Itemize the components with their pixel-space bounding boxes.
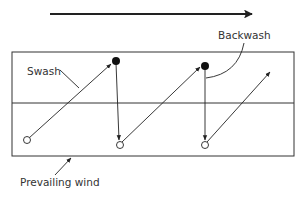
swash-label: Swash [27,65,61,77]
pebble-start-1 [24,137,31,144]
prevailing-wind-arrow [55,158,71,175]
pebble-top-1 [112,57,120,65]
backwash-arrow-1 [116,63,119,140]
pebble-start-2 [117,142,124,149]
backwash-label: Backwash [218,29,271,41]
prevailing-wind-label: Prevailing wind [20,176,100,188]
backwash-leader-curve [206,43,244,78]
swash-arrow-3 [207,72,270,142]
pebble-top-2 [201,62,209,70]
longshore-drift-diagram: Swash Backwash Prevailing wind [0,0,307,203]
swash-arrow-2 [122,67,200,142]
pebble-start-3 [202,142,209,149]
swash-leader-line [60,70,79,88]
